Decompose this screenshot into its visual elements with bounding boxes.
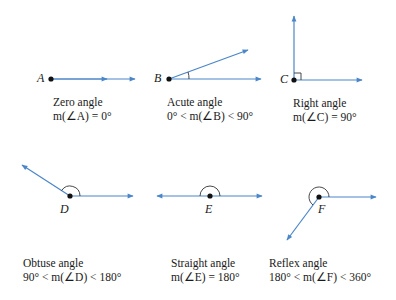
- vertex-label-c: C: [280, 72, 288, 87]
- caption-obtuse-angle: Obtuse angle 90° < m(∠D) < 180°: [23, 256, 121, 284]
- caption-straight-angle: Straight angle m(∠E) = 180°: [171, 256, 240, 284]
- caption-right-angle: Right angle m(∠C) = 90°: [293, 96, 357, 124]
- vertex-label-a: A: [37, 71, 44, 86]
- angle-name: Right angle: [293, 96, 357, 110]
- angle-name: Obtuse angle: [23, 256, 121, 270]
- vertex-label-b: B: [154, 71, 161, 86]
- angle-measure: m(∠A) = 0°: [53, 109, 112, 123]
- angle-measure: 90° < m(∠D) < 180°: [23, 270, 121, 284]
- caption-acute-angle: Acute angle 0° < m(∠B) < 90°: [167, 95, 253, 123]
- angle-name: Reflex angle: [269, 256, 371, 270]
- angle-name: Acute angle: [167, 95, 253, 109]
- vertex-label-f: F: [318, 202, 325, 217]
- caption-zero-angle: Zero angle m(∠A) = 0°: [53, 95, 112, 123]
- reflex-angle-figure: [287, 187, 376, 240]
- vertex-label-d: D: [60, 202, 69, 217]
- caption-reflex-angle: Reflex angle 180° < m(∠F) < 360°: [269, 256, 371, 284]
- angle-measure: 0° < m(∠B) < 90°: [167, 109, 253, 123]
- zero-angle-figure: [48, 76, 135, 81]
- angle-name: Zero angle: [53, 95, 112, 109]
- straight-angle-figure: [157, 186, 262, 199]
- vertex-label-e: E: [205, 202, 212, 217]
- angle-measure: m(∠C) = 90°: [293, 110, 357, 124]
- angle-name: Straight angle: [171, 256, 240, 270]
- angle-diagrams: [0, 0, 396, 300]
- acute-angle-figure: [166, 50, 261, 82]
- angle-measure: 180° < m(∠F) < 360°: [269, 270, 371, 284]
- right-angle-figure: [291, 16, 362, 83]
- angle-measure: m(∠E) = 180°: [171, 270, 240, 284]
- obtuse-angle-figure: [22, 165, 133, 199]
